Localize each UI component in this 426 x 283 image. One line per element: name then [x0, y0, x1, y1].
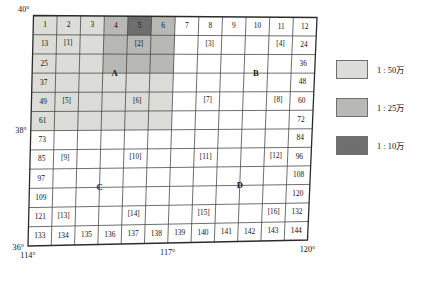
longitude-label: 120°: [300, 246, 316, 254]
cell-number: 121: [35, 213, 46, 220]
bracket-sheet-label: [14]: [128, 212, 140, 219]
cell-number: 11: [278, 23, 285, 30]
cell-number: 37: [40, 79, 47, 86]
cell-number: 120: [292, 190, 303, 197]
latitude-label: 40°: [18, 5, 29, 13]
bracket-sheet-label: [9]: [61, 156, 69, 163]
cell-number: 25: [40, 60, 47, 67]
map-point-d: D: [237, 181, 243, 190]
bracket-sheet-label: [6]: [133, 98, 141, 105]
cell-number: 73: [39, 137, 46, 144]
cell-number: 48: [299, 79, 306, 86]
bracket-sheet-label: [1]: [64, 41, 72, 48]
cell-number: 10: [254, 23, 261, 30]
bracket-sheet-label: [4]: [276, 42, 284, 49]
cell-number: 144: [291, 227, 302, 234]
bracket-sheet-label: [10]: [129, 155, 141, 162]
bracket-sheet-label: [2]: [135, 41, 143, 48]
bracket-sheet-label: [7]: [203, 98, 211, 105]
cell-number: 138: [151, 230, 162, 237]
cell-number: 137: [128, 231, 139, 238]
bracket-sheet-label: [12]: [270, 153, 282, 160]
cell-number: 140: [197, 229, 208, 236]
legend-item: 1 : 50万: [336, 58, 426, 80]
cell-number: 60: [298, 97, 305, 104]
legend-swatch-medium-icon: [336, 98, 368, 117]
bracket-sheet-label: [3]: [205, 41, 213, 48]
cell-number: 3: [90, 22, 94, 29]
cell-number: 132: [291, 209, 302, 216]
legend-item-label: 1 : 10万: [377, 139, 404, 151]
cell-number: 4: [114, 22, 118, 29]
cell-number: 109: [35, 194, 46, 201]
cell-number: 139: [174, 230, 185, 237]
legend-item-label: 1 : 25万: [377, 101, 404, 113]
cell-number: 84: [296, 134, 303, 141]
cell-number: 61: [39, 117, 46, 124]
cell-number: 134: [58, 232, 69, 239]
bracket-sheet-label: [5]: [62, 98, 70, 105]
longitude-label: 114°: [20, 252, 35, 260]
bracket-sheet-label: [13]: [58, 213, 70, 220]
cell-number: 5: [138, 22, 142, 29]
legend-item-label: 1 : 50万: [377, 63, 404, 75]
cell-number: 72: [297, 116, 304, 123]
map-point-b: B: [253, 69, 259, 78]
legend-item: 1 : 25万: [336, 96, 426, 118]
cell-number: 1: [43, 21, 47, 28]
map-sheet-grid: 1234567891011121331341351361371381391401…: [0, 0, 330, 260]
longitude-label: 117°: [160, 249, 175, 257]
bracket-sheet-label: [15]: [198, 210, 210, 217]
bracket-sheet-label: [8]: [274, 97, 282, 104]
legend-swatch-dark-icon: [336, 136, 368, 155]
cell-number: 135: [81, 232, 92, 239]
latitude-label: 38°: [15, 127, 26, 135]
cell-number: 13: [41, 41, 48, 48]
cell-number: 49: [39, 98, 46, 105]
cell-number: 12: [301, 23, 308, 30]
cell-number: 136: [104, 231, 115, 238]
cell-number: 8: [208, 22, 212, 29]
map-point-c: C: [96, 183, 102, 192]
cell-number: 143: [267, 228, 278, 235]
cell-number: 85: [38, 156, 45, 163]
grid-svg: [0, 0, 330, 260]
cell-number: 7: [185, 22, 189, 29]
map-point-a: A: [111, 69, 117, 78]
cell-number: 96: [296, 153, 303, 160]
legend-swatch-light-icon: [336, 60, 368, 79]
cell-number: 24: [300, 42, 307, 49]
cell-number: 108: [293, 172, 304, 179]
cell-number: 9: [232, 23, 236, 30]
cell-number: 142: [244, 228, 255, 235]
cell-number: 6: [161, 22, 165, 29]
legend: 1 : 50万 1 : 25万 1 : 10万: [336, 58, 426, 172]
cell-number: 97: [38, 175, 45, 182]
cell-number: 2: [67, 22, 71, 29]
legend-item: 1 : 10万: [336, 134, 426, 156]
cell-number: 141: [221, 229, 232, 236]
figure-root: 1234567891011121331341351361371381391401…: [0, 0, 426, 283]
cell-number: 36: [300, 60, 307, 67]
bracket-sheet-label: [11]: [200, 154, 212, 161]
cell-number: 133: [34, 232, 45, 239]
bracket-sheet-label: [16]: [268, 209, 280, 216]
